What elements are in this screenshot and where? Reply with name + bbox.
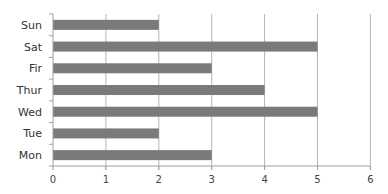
category-label: Sun	[21, 19, 42, 32]
value-tick-label: 1	[103, 174, 109, 185]
bar-tue	[53, 128, 159, 138]
value-tick-label: 4	[261, 174, 267, 185]
value-tick-label: 3	[209, 174, 215, 185]
bar-sat	[53, 42, 318, 52]
bar-sun	[53, 20, 159, 30]
value-tick-label: 5	[314, 174, 320, 185]
category-label: Thur	[16, 84, 43, 97]
horizontal-bar-chart: SunSatFirThurWedTueMon 0123456	[0, 0, 388, 194]
category-label: Wed	[18, 106, 42, 119]
bar-thur	[53, 85, 265, 95]
value-tick-label: 0	[50, 174, 56, 185]
bar-wed	[53, 107, 318, 117]
bar-mon	[53, 150, 212, 160]
category-label: Sat	[24, 41, 43, 54]
bar-fir	[53, 63, 212, 73]
value-tick-label: 6	[367, 174, 373, 185]
bar-series	[53, 20, 318, 160]
value-axis-labels: 0123456	[50, 174, 374, 185]
category-label: Tue	[22, 127, 42, 140]
value-tick-label: 2	[156, 174, 162, 185]
category-label: Mon	[19, 149, 42, 162]
category-axis-labels: SunSatFirThurWedTueMon	[16, 19, 43, 162]
category-label: Fir	[29, 62, 43, 75]
